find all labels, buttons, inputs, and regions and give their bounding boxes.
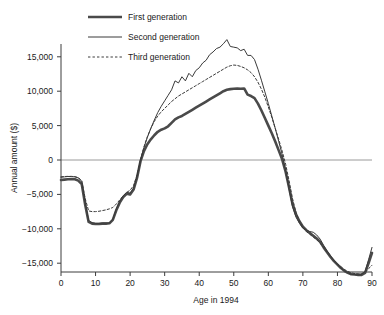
- x-tick-label: 10: [91, 278, 101, 288]
- y-tick-label: −15,000: [22, 258, 53, 268]
- x-tick-label: 20: [125, 278, 135, 288]
- x-tick-label: 70: [298, 278, 308, 288]
- legend-label-first-generation: First generation: [128, 12, 187, 22]
- x-tick-label: 90: [367, 278, 377, 288]
- y-tick-label: 5,000: [32, 121, 54, 131]
- chart-background: [0, 0, 384, 315]
- x-axis-title: Age in 1994: [193, 295, 239, 305]
- x-tick-label: 30: [160, 278, 170, 288]
- y-tick-label: −10,000: [22, 224, 53, 234]
- chart-canvas: 15,00010,0005,0000−5,000−10,000−15,000 0…: [0, 0, 384, 315]
- y-tick-label: 0: [48, 155, 53, 165]
- y-tick-label: 15,000: [27, 52, 53, 62]
- x-tick-label: 40: [194, 278, 204, 288]
- y-tick-label: 10,000: [27, 86, 53, 96]
- x-tick-label: 80: [333, 278, 343, 288]
- x-tick-label: 0: [59, 278, 64, 288]
- y-axis-title: Annual amount ($): [9, 123, 19, 193]
- legend-label-second-generation: Second generation: [128, 32, 200, 42]
- y-tick-label: −5,000: [27, 189, 54, 199]
- x-tick-label: 60: [264, 278, 274, 288]
- legend-label-third-generation: Third generation: [128, 52, 190, 62]
- chart-figure: 15,00010,0005,0000−5,000−10,000−15,000 0…: [0, 0, 384, 315]
- x-tick-label: 50: [229, 278, 239, 288]
